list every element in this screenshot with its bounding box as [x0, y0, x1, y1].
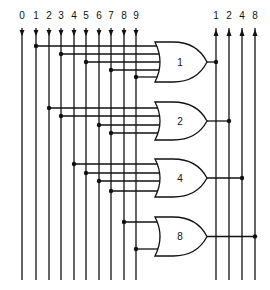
- junction-dot: [72, 162, 76, 166]
- input-line-5: 5: [83, 10, 89, 280]
- junction-dot: [59, 114, 63, 118]
- arrow-down-icon: [34, 30, 39, 36]
- input-label: 1: [33, 10, 39, 21]
- or-gate-8: 8: [122, 217, 257, 256]
- arrow-up-icon: [214, 29, 219, 36]
- arrow-down-icon: [109, 30, 114, 36]
- output-line-1: 1: [213, 10, 219, 280]
- gate-label: 4: [177, 173, 183, 184]
- output-lines: 1248: [213, 10, 258, 280]
- input-label: 8: [121, 10, 127, 21]
- input-label: 2: [46, 10, 52, 21]
- arrow-down-icon: [59, 30, 64, 36]
- input-line-2: 2: [46, 10, 52, 280]
- gate-label: 2: [177, 116, 183, 127]
- output-label: 2: [226, 10, 232, 21]
- output-label: 1: [213, 10, 219, 21]
- junction-dot: [134, 75, 138, 79]
- junction-dot: [59, 52, 63, 56]
- junction-dot: [34, 44, 38, 48]
- junction-dot: [97, 123, 101, 127]
- input-line-4: 4: [71, 10, 77, 280]
- gate-label: 1: [177, 57, 183, 68]
- input-label: 6: [96, 10, 102, 21]
- input-line-6: 6: [96, 10, 102, 280]
- arrow-up-icon: [227, 29, 232, 36]
- input-lines: 0123456789: [19, 10, 139, 280]
- input-line-3: 3: [58, 10, 64, 280]
- junction-dot: [97, 179, 101, 183]
- or-gates: 1248: [34, 42, 257, 256]
- output-label: 4: [239, 10, 245, 21]
- junction-dot: [240, 176, 244, 180]
- input-label: 4: [71, 10, 77, 21]
- junction-dot: [84, 171, 88, 175]
- or-gate-4: 4: [72, 159, 244, 197]
- junction-dot: [84, 60, 88, 64]
- arrow-down-icon: [47, 30, 52, 36]
- junction-dot: [134, 247, 138, 251]
- input-label: 9: [133, 10, 139, 21]
- junction-dot: [109, 189, 113, 193]
- input-label: 7: [108, 10, 114, 21]
- encoder-diagram: 0123456789 1248 1248: [0, 0, 270, 290]
- input-line-8: 8: [121, 10, 127, 280]
- input-line-0: 0: [19, 10, 25, 280]
- junction-dot: [227, 119, 231, 123]
- output-label: 8: [252, 10, 258, 21]
- arrow-down-icon: [122, 30, 127, 36]
- arrow-up-icon: [253, 29, 258, 36]
- input-line-9: 9: [133, 10, 139, 280]
- junction-dot: [47, 106, 51, 110]
- arrow-down-icon: [84, 30, 89, 36]
- output-line-2: 2: [226, 10, 232, 280]
- input-label: 0: [19, 10, 25, 21]
- junction-dot: [214, 60, 218, 64]
- junction-dot: [253, 234, 257, 238]
- arrow-up-icon: [240, 29, 245, 36]
- gate-label: 8: [177, 231, 183, 242]
- output-line-4: 4: [239, 10, 245, 280]
- arrow-down-icon: [72, 30, 77, 36]
- junction-dot: [109, 68, 113, 72]
- output-line-8: 8: [252, 10, 258, 280]
- arrow-down-icon: [20, 30, 25, 36]
- arrow-down-icon: [134, 30, 139, 36]
- input-label: 5: [83, 10, 89, 21]
- input-line-1: 1: [33, 10, 39, 280]
- arrow-down-icon: [97, 30, 102, 36]
- input-label: 3: [58, 10, 64, 21]
- junction-dot: [122, 220, 126, 224]
- junction-dot: [109, 131, 113, 135]
- input-line-7: 7: [108, 10, 114, 280]
